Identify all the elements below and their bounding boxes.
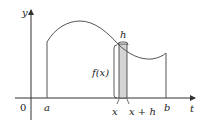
point-b-label: b <box>164 102 170 113</box>
point-x-plus-h-label: x + h <box>129 106 156 117</box>
integral-diagram: y t 0 a b x x + h h f(x) <box>0 0 207 128</box>
strip-rectangle <box>119 44 127 98</box>
t-axis-label: t <box>190 103 195 114</box>
origin-label: 0 <box>20 102 26 113</box>
x-plus-h-pointer <box>127 99 129 104</box>
x-pointer <box>117 99 119 104</box>
fx-brace <box>114 45 117 98</box>
h-label: h <box>120 29 126 40</box>
fx-label: f(x) <box>91 67 109 78</box>
function-curve <box>47 21 166 59</box>
point-x-label: x <box>112 106 118 117</box>
point-a-label: a <box>44 102 50 113</box>
y-axis-label: y <box>21 7 28 18</box>
